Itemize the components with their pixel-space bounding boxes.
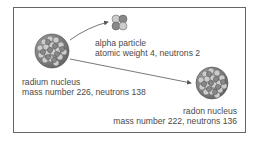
alpha-particle-label: alpha particle atomic weight 4, neutrons… bbox=[95, 38, 200, 58]
radium-nucleus-icon bbox=[35, 34, 69, 68]
radon-nucleus-label: radon nucleus mass number 222, neutrons … bbox=[113, 106, 237, 126]
radon-nucleus-icon bbox=[196, 67, 228, 99]
radium-nucleus-label: radium nucleus mass number 226, neutrons… bbox=[22, 77, 146, 97]
alpha-particle-icon bbox=[112, 15, 127, 30]
